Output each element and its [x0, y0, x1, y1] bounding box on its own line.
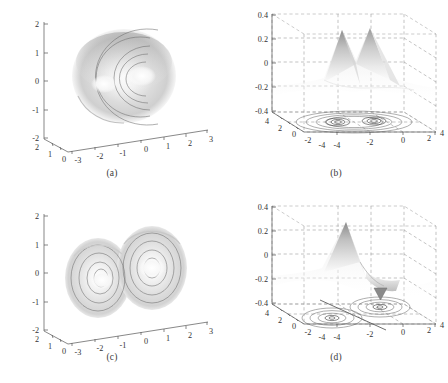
tick-z: -2: [32, 326, 39, 335]
panel-a-plot: 2 1 0 -1 -2 2 1 0 -3 -2 -1 0 1 2 3: [0, 0, 224, 191]
tick-z: 1: [35, 241, 39, 250]
tick-x: 3: [209, 327, 213, 336]
panel-a-surface: [72, 29, 176, 125]
tick-z: 0.4: [258, 203, 268, 212]
figure-panel-grid: 2 1 0 -1 -2 2 1 0 -3 -2 -1 0 1 2 3: [0, 0, 448, 383]
tick-z: 1: [35, 49, 39, 58]
tick-z: -0.4: [255, 107, 268, 116]
tick-z: 0: [264, 251, 268, 260]
tick-y: 4: [265, 117, 269, 126]
tick-z: -0.2: [255, 83, 268, 92]
tick-y: 0: [292, 322, 296, 331]
tick-z: -1: [32, 298, 39, 307]
tick-x: 0: [401, 328, 405, 337]
tick-y: -2: [305, 136, 312, 145]
panel-b-surface: [272, 28, 436, 100]
panel-b-caption: (b): [224, 168, 448, 178]
panel-c-surface: [65, 226, 187, 318]
tick-y: 2: [35, 143, 39, 152]
tick-x: -4: [334, 141, 341, 150]
tick-x: 0: [144, 145, 148, 154]
tick-z: -0.4: [255, 299, 268, 308]
tick-y: 2: [278, 124, 282, 133]
panel-c-caption: (c): [0, 352, 224, 362]
tick-x: -1: [120, 341, 127, 350]
panel-b: 0.4 0.2 0 -0.2 -0.4 4 2 0 -2 -4 -4 -2 0 …: [224, 0, 448, 191]
tick-y: 2: [278, 316, 282, 325]
tick-y: 0: [62, 155, 66, 164]
tick-y: 4: [265, 309, 269, 318]
tick-z: -2: [32, 134, 39, 143]
tick-z: 0: [35, 269, 39, 278]
tick-x: 3: [209, 135, 213, 144]
panel-a: 2 1 0 -1 -2 2 1 0 -3 -2 -1 0 1 2 3: [0, 0, 224, 191]
tick-z: 2: [35, 212, 39, 221]
tick-y: 1: [48, 150, 52, 159]
tick-x: 4: [440, 321, 444, 330]
panel-b-plot: 0.4 0.2 0 -0.2 -0.4 4 2 0 -2 -4 -4 -2 0 …: [224, 0, 448, 191]
tick-x: 0: [401, 136, 405, 145]
panel-c: 2 1 0 -1 -2 2 1 0 -3 -2 -1 0 1 2 3: [0, 192, 224, 383]
tick-z: 0: [264, 59, 268, 68]
panel-d-surface: [272, 222, 436, 297]
tick-y: -2: [305, 328, 312, 337]
tick-z: 0.2: [258, 227, 268, 236]
tick-z: 0: [35, 77, 39, 86]
tick-y: 1: [48, 342, 52, 351]
panel-d-caption: (d): [224, 352, 448, 362]
tick-z: 2: [35, 20, 39, 29]
tick-x: 0: [144, 337, 148, 346]
panel-d-contours-right: [350, 297, 410, 317]
tick-x: -1: [120, 149, 127, 158]
tick-x: 2: [427, 134, 431, 143]
tick-x: -2: [367, 138, 374, 147]
tick-x: -3: [75, 156, 82, 165]
tick-x: 1: [166, 142, 170, 151]
tick-y: -4: [319, 333, 326, 342]
tick-z: -0.2: [255, 275, 268, 284]
tick-y: 0: [292, 130, 296, 139]
tick-z: 0.4: [258, 11, 268, 20]
tick-x: 4: [440, 129, 444, 138]
panel-d: 0.4 0.2 0 -0.2 -0.4 4 2 0 -2 -4 -4 -2 0 …: [224, 192, 448, 383]
tick-x: 2: [188, 331, 192, 340]
tick-x: 1: [166, 334, 170, 343]
tick-x: -2: [97, 152, 104, 161]
tick-y: -4: [319, 141, 326, 150]
tick-x: -2: [367, 330, 374, 339]
tick-z: -1: [32, 106, 39, 115]
panel-a-caption: (a): [0, 168, 224, 178]
tick-y: 2: [35, 335, 39, 344]
tick-x: 2: [188, 139, 192, 148]
panel-d-contours-left: [302, 308, 362, 328]
tick-x: 2: [427, 326, 431, 335]
tick-x: -4: [334, 333, 341, 342]
tick-z: 0.2: [258, 35, 268, 44]
